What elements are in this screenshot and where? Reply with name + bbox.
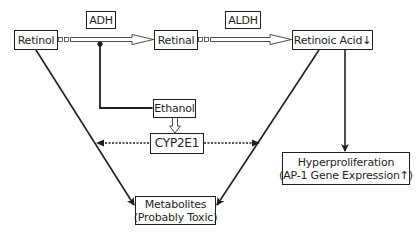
ethanol-inhibits-adh-line (97, 41, 152, 108)
retinoic-acid-label: Retinoic Acid↓ (294, 34, 371, 47)
retinal-to-retinoic-acid-arrow (199, 35, 292, 45)
adh-label: ADH (89, 14, 113, 27)
hyperproliferation-node: Hyperproliferation (AP-1 Gene Expression… (282, 152, 410, 185)
metabolites-label: Metabolites (145, 198, 207, 211)
retinoic-acid-node: Retinoic Acid↓ (292, 30, 373, 50)
retinol-label: Retinol (18, 34, 55, 47)
retinal-node: Retinal (154, 30, 198, 50)
adh-enzyme-node: ADH (86, 11, 116, 29)
aldh-label: ALDH (228, 14, 258, 27)
retinol-to-metabolites-arrow (36, 50, 134, 205)
probably-toxic-label: (Probably Toxic) (134, 211, 217, 224)
cyp2e1-node: CYP2E1 (150, 133, 204, 154)
retinal-label: Retinal (158, 34, 195, 47)
ap1-expression-label: (AP-1 Gene Expression↑) (279, 169, 413, 182)
ethanol-label: Ethanol (154, 102, 194, 115)
cyp2e1-label: CYP2E1 (155, 137, 199, 150)
retinol-to-retinal-arrow (59, 35, 154, 45)
ethanol-to-cyp2e1-arrow (170, 118, 181, 134)
ethanol-node: Ethanol (153, 99, 196, 118)
metabolites-node: Metabolites (Probably Toxic) (135, 196, 216, 225)
aldh-enzyme-node: ALDH (225, 11, 261, 29)
hyperproliferation-label: Hyperproliferation (298, 156, 395, 169)
retinol-node: Retinol (14, 30, 58, 50)
